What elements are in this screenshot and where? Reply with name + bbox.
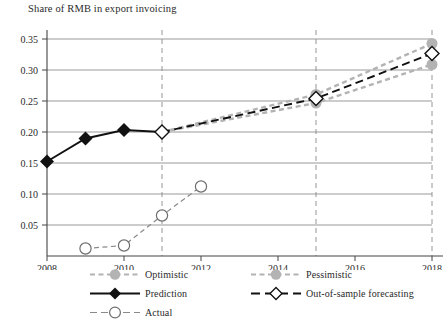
vertical-reference-lines	[162, 30, 432, 256]
y-tick-label-0.20: 0.20	[21, 127, 39, 138]
y-tick-label-0.15: 0.15	[21, 158, 39, 169]
legend-label-pessimistic: Pessimistic	[303, 269, 352, 280]
legend-item-actual: Actual	[88, 304, 172, 321]
legend-marker-prediction	[88, 285, 142, 302]
legend-item-optimistic: Optimistic	[88, 266, 188, 283]
y-tick-label-0.30: 0.30	[21, 65, 39, 76]
legend-label-prediction: Prediction	[142, 288, 187, 299]
y-tick-label-0.35: 0.35	[21, 34, 39, 45]
x-tick-marks	[47, 256, 432, 261]
point-actual-2012	[195, 181, 206, 192]
legend-item-pessimistic: Pessimistic	[249, 266, 352, 283]
legend-marker-actual	[88, 304, 142, 321]
chart-figure: Share of RMB in export invoicing	[0, 0, 448, 323]
plot-area: 0.35 0.30 0.25 0.20 0.15 0.10 0.05 2008 …	[0, 0, 448, 270]
point-actual-2009	[80, 243, 91, 254]
point-oos-2018	[425, 47, 439, 61]
series-actual-line	[86, 187, 202, 249]
series-actual-markers	[80, 181, 207, 254]
series-optimistic-line	[162, 44, 432, 133]
legend-marker-pessimistic	[249, 266, 303, 283]
y-tick-label-0.10: 0.10	[21, 189, 39, 200]
y-tick-label-0.05: 0.05	[21, 220, 39, 231]
legend-marker-optimistic	[88, 266, 142, 283]
y-tick-marks	[42, 39, 47, 225]
series-prediction-markers	[40, 123, 131, 169]
point-actual-2011	[156, 210, 167, 221]
point-prediction-2010	[117, 123, 131, 137]
legend-label-optimistic: Optimistic	[142, 269, 188, 280]
point-prediction-2008	[40, 155, 54, 169]
gridlines	[47, 39, 432, 225]
legend-label-out-of-sample: Out-of-sample forecasting	[303, 288, 414, 299]
point-oos-2011	[155, 125, 169, 139]
legend-label-actual: Actual	[142, 307, 172, 318]
chart-legend: Optimistic Pessimistic Prediction	[0, 266, 448, 323]
point-prediction-2009	[79, 132, 93, 146]
legend-item-prediction: Prediction	[88, 285, 187, 302]
series-prediction-line	[47, 130, 162, 162]
legend-item-out-of-sample-forecasting: Out-of-sample forecasting	[249, 285, 414, 302]
y-tick-label-0.25: 0.25	[21, 96, 39, 107]
legend-marker-out-of-sample	[249, 285, 303, 302]
series-out-of-sample-line	[162, 54, 432, 133]
point-actual-2010	[118, 240, 129, 251]
